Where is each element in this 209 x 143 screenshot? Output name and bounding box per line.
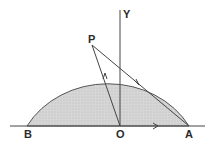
label-y: Y (123, 8, 131, 20)
label-o: O (116, 128, 125, 140)
arrow-op-icon (103, 73, 107, 79)
label-b: B (24, 128, 32, 140)
label-p: P (88, 33, 95, 45)
label-a: A (185, 128, 193, 140)
semicircle-diagram: Y P B O A (0, 0, 209, 143)
arrow-pa-icon (134, 79, 139, 85)
